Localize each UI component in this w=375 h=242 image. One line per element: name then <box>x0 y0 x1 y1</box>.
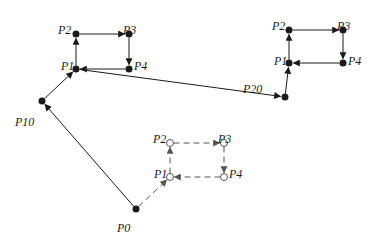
edges-layer <box>45 30 343 207</box>
node-b-p4 <box>340 60 347 67</box>
edge-p10-to-a_p1 <box>45 72 73 99</box>
node-label-p20: P20 <box>242 82 262 96</box>
node-p10 <box>39 98 46 105</box>
node-a-p4 <box>126 66 133 73</box>
node-label-b-p1: P1 <box>273 54 287 68</box>
node-label-a-p4: P4 <box>133 59 147 73</box>
node-label-a-p1: P1 <box>60 59 74 73</box>
node-c-p4 <box>221 174 228 181</box>
node-p20 <box>282 94 289 101</box>
labels-layer: P2P3P1P4P10P20P2P3P1P4P0P2P3P1P4 <box>14 19 361 235</box>
node-label-b-p2: P2 <box>271 19 285 33</box>
node-label-p10: P10 <box>14 115 34 129</box>
nodes-layer <box>39 27 347 213</box>
node-c-p2 <box>167 140 174 147</box>
node-label-c-p2: P2 <box>152 132 166 146</box>
node-label-c-p3: P3 <box>217 132 231 146</box>
node-label-a-p2: P2 <box>57 23 71 37</box>
edge-p0-to-c_p1 <box>139 180 167 207</box>
edge-p20-to-b_p1 <box>285 67 288 93</box>
node-label-p0: P0 <box>116 221 130 235</box>
node-label-a-p3: P3 <box>122 23 136 37</box>
node-b-p2 <box>286 27 293 34</box>
node-label-c-p4: P4 <box>228 167 242 181</box>
node-c-p1 <box>167 174 174 181</box>
node-a-p2 <box>73 31 80 38</box>
node-p0 <box>133 206 140 213</box>
node-label-b-p4: P4 <box>347 54 361 68</box>
node-label-c-p1: P1 <box>153 167 167 181</box>
node-label-b-p3: P3 <box>336 19 350 33</box>
edge-p0-to-p10 <box>45 104 134 206</box>
path-diagram: P2P3P1P4P10P20P2P3P1P4P0P2P3P1P4 <box>0 0 375 242</box>
